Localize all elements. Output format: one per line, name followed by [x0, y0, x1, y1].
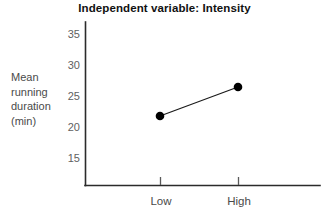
- y-axis-label-line-1: Mean: [11, 70, 59, 85]
- x-tick-label-high: High: [227, 195, 251, 207]
- y-axis-label-line-2: running: [11, 85, 59, 100]
- x-tick-label-low: Low: [150, 195, 171, 207]
- y-axis-label-line-4: (min): [11, 114, 59, 129]
- chart-figure: Independent variable: Intensity 35 30 25…: [0, 0, 329, 218]
- y-axis-label-line-3: duration: [11, 99, 59, 114]
- y-axis-label: Mean running duration (min): [11, 70, 59, 128]
